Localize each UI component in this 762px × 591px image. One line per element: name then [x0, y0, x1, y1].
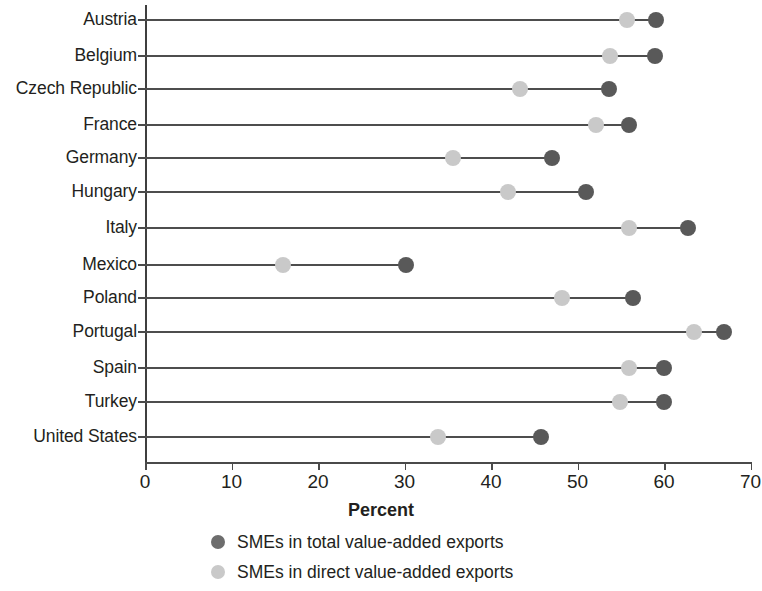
data-point-direct[interactable] [430, 429, 446, 445]
category-axis-labels: AustriaBelgiumCzech RepublicFranceGerman… [0, 0, 137, 470]
connector-line [145, 227, 688, 228]
category-label: France [83, 116, 137, 134]
data-point-direct[interactable] [602, 48, 618, 64]
data-point-direct[interactable] [621, 360, 637, 376]
category-tick [138, 227, 145, 228]
category-tick [138, 297, 145, 298]
category-label: Poland [83, 289, 137, 307]
category-tick [138, 367, 145, 368]
data-point-total[interactable] [656, 360, 672, 376]
category-label: Hungary [72, 183, 137, 201]
data-point-total[interactable] [398, 257, 414, 273]
x-tick-label: 60 [653, 472, 674, 491]
category-label: Turkey [85, 393, 137, 411]
data-point-total[interactable] [656, 394, 672, 410]
category-label: United States [33, 428, 137, 446]
connector-line [145, 124, 629, 125]
x-axis-title: Percent [0, 500, 762, 521]
x-tick-label: 10 [221, 472, 242, 491]
data-point-total[interactable] [648, 12, 664, 28]
dark-circle-icon [211, 535, 225, 549]
category-tick [138, 436, 145, 437]
x-tick [578, 462, 580, 470]
x-tick [405, 462, 407, 470]
category-label: Mexico [82, 256, 137, 274]
x-tick [491, 462, 493, 470]
category-tick [138, 19, 145, 20]
data-point-direct[interactable] [554, 290, 570, 306]
data-point-direct[interactable] [445, 150, 461, 166]
category-label: Portugal [73, 323, 137, 341]
data-point-direct[interactable] [612, 394, 628, 410]
x-tick [232, 462, 234, 470]
category-tick [138, 124, 145, 125]
connector-line [145, 19, 656, 20]
connector-line [145, 88, 609, 89]
dumbbell-chart: AustriaBelgiumCzech RepublicFranceGerman… [0, 0, 762, 591]
category-tick [138, 191, 145, 192]
connector-line [145, 55, 655, 56]
data-point-direct[interactable] [686, 324, 702, 340]
category-tick [138, 331, 145, 332]
data-point-total[interactable] [578, 184, 594, 200]
legend-item[interactable]: SMEs in total value-added exports [0, 527, 762, 557]
data-point-direct[interactable] [621, 220, 637, 236]
data-point-direct[interactable] [500, 184, 516, 200]
x-tick [664, 462, 666, 470]
data-point-total[interactable] [625, 290, 641, 306]
connector-line [145, 157, 552, 158]
category-label: Spain [93, 359, 137, 377]
category-tick [138, 264, 145, 265]
x-tick-label: 40 [480, 472, 501, 491]
connector-line [145, 367, 664, 368]
data-point-total[interactable] [533, 429, 549, 445]
x-tick [751, 462, 753, 470]
data-point-total[interactable] [716, 324, 732, 340]
data-point-direct[interactable] [275, 257, 291, 273]
category-label: Austria [83, 11, 137, 29]
x-tick-label: 0 [140, 472, 151, 491]
x-tick-label: 70 [740, 472, 761, 491]
connector-line [145, 331, 724, 332]
category-label: Germany [66, 149, 137, 167]
category-label: Italy [105, 219, 137, 237]
data-point-total[interactable] [601, 81, 617, 97]
legend-item[interactable]: SMEs in direct value-added exports [0, 557, 762, 587]
category-tick [138, 401, 145, 402]
category-tick [138, 88, 145, 89]
legend-item-label: SMEs in direct value-added exports [237, 562, 513, 583]
x-tick-label: 30 [394, 472, 415, 491]
x-tick-label: 20 [307, 472, 328, 491]
x-tick [318, 462, 320, 470]
data-point-total[interactable] [621, 117, 637, 133]
x-axis-line [145, 462, 751, 464]
category-label: Czech Republic [16, 80, 137, 98]
data-point-total[interactable] [647, 48, 663, 64]
category-tick [138, 55, 145, 56]
category-tick [138, 157, 145, 158]
connector-line [145, 436, 541, 437]
x-tick [145, 462, 147, 470]
data-point-total[interactable] [544, 150, 560, 166]
data-point-direct[interactable] [588, 117, 604, 133]
connector-line [145, 401, 664, 402]
category-label: Belgium [74, 47, 137, 65]
data-point-total[interactable] [680, 220, 696, 236]
legend-item-label: SMEs in total value-added exports [237, 532, 504, 553]
data-point-direct[interactable] [512, 81, 528, 97]
data-point-direct[interactable] [619, 12, 635, 28]
chart-legend: SMEs in total value-added exports SMEs i… [0, 527, 762, 587]
plot-area: AustriaBelgiumCzech RepublicFranceGerman… [0, 0, 762, 470]
x-tick-label: 50 [567, 472, 588, 491]
connector-line [145, 191, 586, 192]
light-circle-icon [211, 565, 225, 579]
y-axis-line [145, 5, 147, 463]
